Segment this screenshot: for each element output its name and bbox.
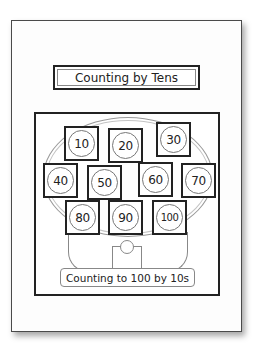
title-box: Counting by Tens bbox=[53, 65, 200, 90]
number-tile-70: 70 bbox=[181, 163, 216, 198]
tile-number: 50 bbox=[91, 169, 118, 196]
number-tile-80: 80 bbox=[65, 200, 100, 235]
tile-number: 10 bbox=[68, 130, 95, 157]
number-tile-40: 40 bbox=[43, 163, 78, 198]
number-tile-100: 100 bbox=[152, 200, 187, 235]
number-tile-10: 10 bbox=[64, 126, 99, 161]
tile-number: 60 bbox=[142, 166, 169, 193]
tile-number: 20 bbox=[112, 132, 139, 159]
tile-number: 80 bbox=[69, 204, 96, 231]
caption-label: Counting to 100 by 10s bbox=[60, 268, 195, 287]
tile-number: 30 bbox=[160, 126, 187, 153]
number-tile-50: 50 bbox=[87, 165, 122, 200]
tile-number: 100 bbox=[156, 204, 183, 231]
tile-number: 90 bbox=[112, 204, 139, 231]
number-tile-30: 30 bbox=[156, 122, 191, 157]
gumball-knob bbox=[120, 240, 134, 254]
number-tile-60: 60 bbox=[138, 162, 173, 197]
number-tile-20: 20 bbox=[108, 128, 143, 163]
tile-number: 40 bbox=[47, 167, 74, 194]
page-title: Counting by Tens bbox=[57, 69, 196, 86]
tile-number: 70 bbox=[185, 167, 212, 194]
number-tile-90: 90 bbox=[108, 200, 143, 235]
